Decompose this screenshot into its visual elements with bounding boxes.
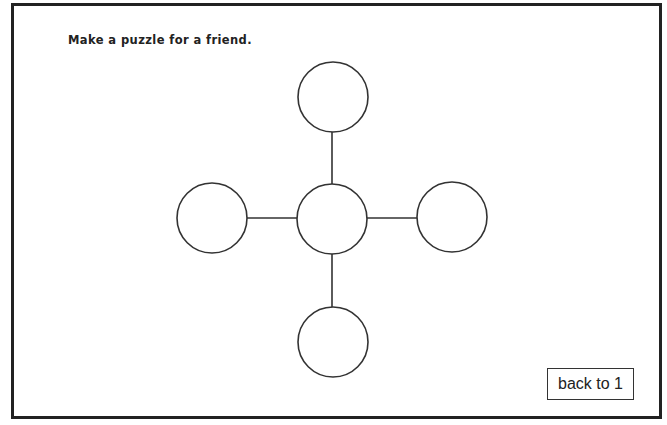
back-to-1-button[interactable]: back to 1 [547, 368, 634, 400]
puzzle-node-left[interactable] [177, 183, 247, 253]
puzzle-node-center[interactable] [297, 184, 367, 254]
puzzle-node-top[interactable] [298, 62, 368, 132]
puzzle-node-bottom[interactable] [298, 307, 368, 377]
puzzle-diagram [0, 0, 667, 425]
puzzle-node-right[interactable] [417, 182, 487, 252]
